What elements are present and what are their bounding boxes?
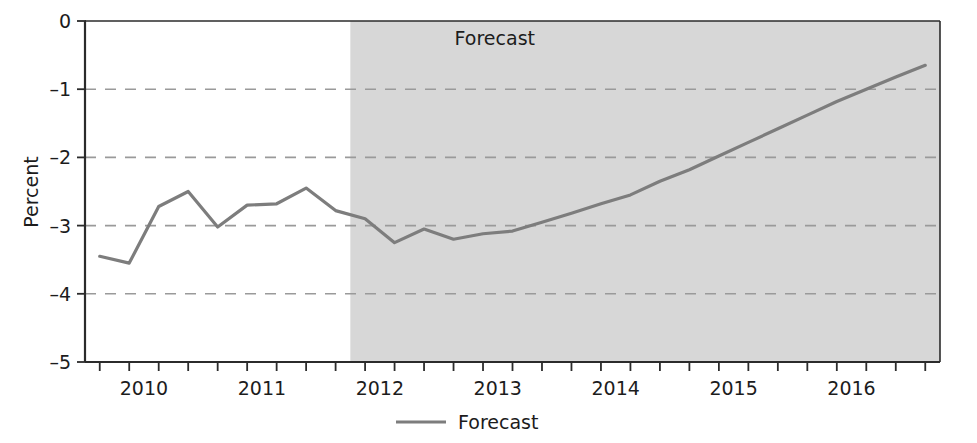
x-axis-tick-label: 2016 [827, 377, 875, 399]
x-axis-labels-group: 2010201120122013201420152016 [120, 377, 876, 399]
y-axis-tick-label: –5 [49, 351, 71, 373]
legend-label-forecast: Forecast [458, 411, 538, 433]
forecast-shaded-region [350, 21, 940, 362]
x-axis-tick-label: 2010 [120, 377, 168, 399]
x-axis-tick-label: 2014 [592, 377, 640, 399]
x-axis-tick-label: 2012 [356, 377, 404, 399]
y-axis-tick-label: –4 [49, 283, 71, 305]
forecast-region-label: Forecast [455, 27, 535, 49]
y-axis-tick-label: –1 [49, 78, 71, 100]
y-axis-title: Percent [20, 156, 42, 228]
forecast-shade-rect [350, 21, 940, 362]
y-axis-tick-label: –2 [49, 146, 71, 168]
x-axis-tick-label: 2011 [238, 377, 286, 399]
forecast-line-chart: 0–1–2–3–4–5 2010201120122013201420152016… [0, 0, 977, 443]
y-axis-ticks-group: 0–1–2–3–4–5 [49, 10, 86, 373]
x-axis-tick-label: 2015 [709, 377, 757, 399]
x-axis-tick-label: 2013 [474, 377, 522, 399]
y-axis-tick-label: 0 [59, 10, 71, 32]
legend: Forecast [396, 411, 538, 433]
y-axis-tick-label: –3 [49, 215, 71, 237]
chart-figure: 0–1–2–3–4–5 2010201120122013201420152016… [0, 0, 977, 443]
